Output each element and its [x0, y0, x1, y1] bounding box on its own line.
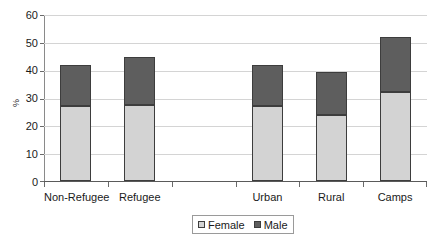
legend-swatch-female-icon — [198, 221, 205, 228]
y-tick-label: 50 — [16, 38, 38, 48]
x-axis-label: Refugee — [108, 190, 172, 204]
x-axis-label: Camps — [363, 190, 427, 204]
bar-segment-female[interactable] — [316, 115, 347, 181]
bar-group[interactable] — [380, 15, 411, 182]
y-tick-label: 40 — [16, 65, 38, 75]
legend-swatch-male-icon — [254, 221, 261, 228]
x-tick-mark — [426, 182, 427, 187]
bar-segment-female[interactable] — [252, 106, 283, 181]
y-tick-label: 0 — [16, 177, 38, 187]
legend-label-male: Male — [264, 219, 288, 231]
bar-segment-male[interactable] — [380, 37, 411, 92]
x-axis-label: Urban — [236, 190, 300, 204]
legend-item-male[interactable]: Male — [254, 219, 288, 231]
x-axis-label: Rural — [299, 190, 363, 204]
chart-legend: Female Male — [192, 215, 294, 234]
stacked-bar-chart: % 60 50 40 30 20 10 0 Non-RefugeeRefugee… — [0, 0, 443, 245]
bar-segment-male[interactable] — [252, 65, 283, 107]
bar-segment-male[interactable] — [316, 72, 347, 115]
legend-item-female[interactable]: Female — [198, 219, 245, 231]
x-tick-mark — [108, 182, 109, 187]
bar-segment-female[interactable] — [60, 106, 91, 181]
x-tick-mark — [172, 182, 173, 187]
x-axis-category-labels: Non-RefugeeRefugeeUrbanRuralCamps — [44, 190, 427, 206]
x-tick-mark — [236, 182, 237, 187]
bar-group[interactable] — [316, 15, 347, 182]
x-tick-mark — [299, 182, 300, 187]
legend-label-female: Female — [208, 219, 245, 231]
x-tick-mark — [44, 182, 45, 187]
y-tick-label: 60 — [16, 10, 38, 20]
x-axis-label: Non-Refugee — [44, 190, 108, 204]
plot-area — [44, 15, 427, 182]
bar-group[interactable] — [60, 15, 91, 182]
bar-segment-male[interactable] — [60, 65, 91, 107]
y-tick-label: 20 — [16, 121, 38, 131]
bar-segment-female[interactable] — [124, 105, 155, 181]
bar-segment-female[interactable] — [380, 92, 411, 181]
y-tick-label: 30 — [16, 93, 38, 103]
x-tick-mark — [363, 182, 364, 187]
bars-layer — [44, 15, 427, 182]
y-axis-tick-labels: 60 50 40 30 20 10 0 — [12, 0, 38, 245]
x-axis-tick-marks — [44, 182, 427, 188]
bar-segment-male[interactable] — [124, 57, 155, 105]
y-tick-label: 10 — [16, 149, 38, 159]
bar-group[interactable] — [124, 15, 155, 182]
bar-group[interactable] — [252, 15, 283, 182]
